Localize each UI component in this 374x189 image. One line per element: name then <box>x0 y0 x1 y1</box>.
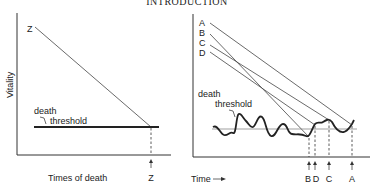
y-axis-label: Vitality <box>5 71 15 98</box>
arrow-head-icon <box>350 161 354 165</box>
line-label-d: D <box>199 48 206 58</box>
figure: INTRODUCTION Vitality Z death threshold … <box>0 0 374 189</box>
line-label-b: B <box>199 28 205 38</box>
death-marker-c: C <box>326 174 333 184</box>
threshold-pointer <box>40 117 46 124</box>
death-marker-a: A <box>349 174 355 184</box>
time-arrow-icon <box>221 177 226 181</box>
left-axes <box>17 13 171 155</box>
vitality-line-d <box>210 52 315 125</box>
arrow-head-icon <box>313 161 317 165</box>
vitality-line-a <box>210 23 352 125</box>
x-axis-label: Times of death <box>48 173 107 183</box>
vitality-line-b <box>210 34 309 137</box>
death-arrows <box>307 161 354 170</box>
threshold-label-1: death <box>34 106 57 116</box>
arrow-head-icon <box>307 161 311 165</box>
left-panel: Vitality Z death threshold Z Times of de… <box>5 13 171 183</box>
fluctuating-death-threshold <box>213 114 354 136</box>
arrow-head-icon <box>149 159 153 163</box>
page-header: INTRODUCTION <box>146 0 228 7</box>
line-label-c: C <box>199 38 206 48</box>
death-marker-d: D <box>313 174 320 184</box>
right-axes <box>193 14 370 157</box>
threshold-label-1: death <box>198 89 221 99</box>
death-marker-b: B <box>305 174 311 184</box>
threshold-pointer <box>229 110 235 117</box>
right-panel: A B C D death threshold B D C A Time <box>191 14 370 184</box>
line-label-a: A <box>199 18 205 28</box>
threshold-label-2: threshold <box>50 116 87 126</box>
threshold-label-2: threshold <box>215 99 252 109</box>
death-marker-z: Z <box>148 173 154 183</box>
arrow-head-icon <box>327 161 331 165</box>
x-axis-label: Time <box>191 174 211 184</box>
line-label-z: Z <box>27 24 33 34</box>
